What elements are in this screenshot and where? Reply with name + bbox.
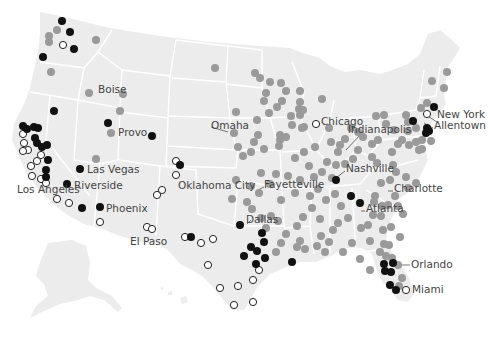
gray-city-dot bbox=[372, 112, 380, 120]
gray-city-dot bbox=[277, 79, 285, 87]
gray-city-dot bbox=[296, 98, 304, 106]
gray-city-dot bbox=[316, 215, 324, 223]
black-city-dot bbox=[78, 204, 86, 212]
gray-city-dot bbox=[47, 68, 55, 76]
black-city-dot bbox=[43, 141, 51, 149]
gray-city-dot bbox=[234, 143, 242, 151]
open-city-dot bbox=[312, 120, 319, 127]
gray-city-dot bbox=[418, 136, 426, 144]
black-city-dot bbox=[332, 176, 340, 184]
gray-city-dot bbox=[282, 133, 290, 141]
gray-city-dot bbox=[260, 97, 268, 105]
gray-city-dot bbox=[306, 192, 314, 200]
gray-city-dot bbox=[418, 145, 426, 153]
black-city-dot bbox=[34, 124, 42, 132]
gray-city-dot bbox=[53, 26, 61, 34]
black-city-dot bbox=[187, 233, 195, 241]
open-city-dot bbox=[234, 282, 241, 289]
gray-city-dot bbox=[368, 140, 376, 148]
gray-city-dot bbox=[322, 196, 330, 204]
open-city-dot bbox=[216, 284, 223, 291]
gray-city-dot bbox=[354, 146, 362, 154]
gray-city-dot bbox=[402, 111, 410, 119]
gray-city-dot bbox=[440, 84, 448, 92]
black-city-dot bbox=[70, 45, 78, 53]
city-label-provo: Provo bbox=[118, 126, 147, 138]
gray-city-dot bbox=[282, 230, 290, 238]
black-city-dot bbox=[76, 165, 84, 173]
gray-city-dot bbox=[277, 196, 285, 204]
city-label-boise: Boise bbox=[98, 83, 126, 95]
gray-city-dot bbox=[427, 137, 435, 145]
open-city-dot bbox=[59, 41, 66, 48]
black-city-dot bbox=[389, 259, 397, 267]
gray-city-dot bbox=[428, 77, 436, 85]
gray-city-dot bbox=[248, 205, 256, 213]
gray-city-dot bbox=[327, 138, 335, 146]
gray-city-dot bbox=[317, 232, 325, 240]
gray-city-dot bbox=[260, 145, 268, 153]
gray-city-dot bbox=[250, 138, 258, 146]
open-city-dot bbox=[153, 191, 160, 198]
gray-city-dot bbox=[265, 109, 273, 117]
city-label-el-paso: El Paso bbox=[130, 235, 167, 247]
black-city-dot bbox=[42, 173, 50, 181]
open-city-dot bbox=[65, 199, 72, 206]
gray-city-dot bbox=[305, 162, 313, 170]
gray-city-dot bbox=[329, 226, 337, 234]
gray-city-dot bbox=[377, 179, 385, 187]
gray-city-dot bbox=[296, 237, 304, 245]
gray-city-dot bbox=[380, 111, 388, 119]
black-city-dot bbox=[387, 268, 395, 276]
black-city-dot bbox=[176, 161, 184, 169]
gray-city-dot bbox=[85, 89, 93, 97]
black-city-dot bbox=[148, 132, 156, 140]
gray-city-dot bbox=[321, 248, 329, 256]
black-city-dot bbox=[380, 260, 388, 268]
city-label-oklahoma-city: Oklahoma City bbox=[178, 179, 255, 191]
gray-city-dot bbox=[313, 242, 321, 250]
gray-city-dot bbox=[311, 143, 319, 151]
alaska-landmass bbox=[30, 240, 122, 318]
open-city-dot bbox=[209, 235, 216, 242]
gray-city-dot bbox=[332, 161, 340, 169]
black-city-dot bbox=[42, 166, 50, 174]
us-map: BoiseProvoLas VegasRiversideLos AngelesP… bbox=[0, 0, 488, 343]
gray-city-dot bbox=[275, 142, 283, 150]
gray-city-dot bbox=[299, 213, 307, 221]
gray-city-dot bbox=[318, 95, 326, 103]
gray-city-dot bbox=[356, 255, 364, 263]
gray-city-dot bbox=[257, 169, 265, 177]
black-city-dot bbox=[23, 125, 31, 133]
gray-city-dot bbox=[247, 148, 255, 156]
gray-city-dot bbox=[334, 148, 342, 156]
gray-city-dot bbox=[325, 238, 333, 246]
black-city-dot bbox=[58, 17, 66, 25]
gray-city-dot bbox=[262, 89, 270, 97]
black-city-dot bbox=[96, 203, 104, 211]
hawaii-landmass bbox=[160, 287, 188, 304]
gray-city-dot bbox=[211, 64, 219, 72]
gray-city-dot bbox=[287, 112, 295, 120]
gray-city-dot bbox=[398, 136, 406, 144]
black-city-dot bbox=[39, 53, 47, 61]
gray-city-dot bbox=[298, 124, 306, 132]
open-city-dot bbox=[20, 139, 27, 146]
city-label-indianapolis: Indianapolis bbox=[348, 123, 411, 135]
city-label-atlanta: Atlanta bbox=[366, 202, 404, 214]
city-label-charlotte: Charlotte bbox=[394, 182, 443, 194]
open-city-dot bbox=[197, 239, 204, 246]
gray-city-dot bbox=[405, 141, 413, 149]
open-city-dot bbox=[402, 286, 409, 293]
black-city-dot bbox=[347, 192, 355, 200]
gray-city-dot bbox=[443, 68, 451, 76]
gray-city-dot bbox=[272, 170, 280, 178]
open-city-dot bbox=[19, 147, 26, 154]
gray-city-dot bbox=[239, 152, 247, 160]
black-city-dot bbox=[260, 238, 268, 246]
gray-city-dot bbox=[116, 107, 124, 115]
black-city-dot bbox=[288, 258, 296, 266]
gray-city-dot bbox=[272, 248, 280, 256]
gray-city-dot bbox=[282, 87, 290, 95]
black-city-dot bbox=[236, 221, 244, 229]
